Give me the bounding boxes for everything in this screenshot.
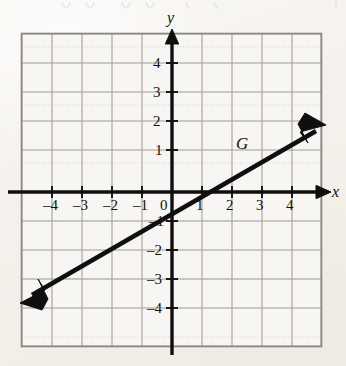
x-tick-label-2: 2 [226,198,234,213]
coordinate-plane [0,0,346,366]
x-tick-label--3: –3 [73,198,88,213]
x-tick-label--2: –2 [103,198,118,213]
y-tick-label-1: 1 [155,143,163,158]
y-axis-label: y [167,10,174,26]
origin-label: 0 [160,198,168,213]
y-tick-label--3: –3 [147,272,162,287]
line-label-G: G [236,135,248,152]
x-axis-arrowhead [316,185,331,198]
y-tick-label-2: 2 [153,114,161,129]
x-tick-label--1: –1 [133,198,148,213]
y-tick-label--2: –2 [147,243,162,258]
x-tick-label-3: 3 [256,198,264,213]
y-tick-label-3: 3 [153,85,161,100]
x-tick-label--4: –4 [43,198,58,213]
x-tick-label-4: 4 [286,198,294,213]
x-tick-label-1: 1 [196,198,204,213]
x-axis-label: x [332,184,339,200]
y-tick-label-4: 4 [153,56,161,71]
y-tick-label--1: –1 [149,214,164,229]
y-tick-label--4: –4 [147,301,162,316]
graph-figure: –4 –3 –2 –1 0 1 2 3 4 4 3 2 1 –1 –2 –3 –… [0,0,346,366]
